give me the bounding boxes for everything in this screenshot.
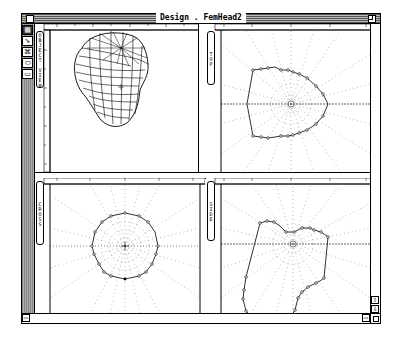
top-section-canvas (206, 24, 371, 172)
top-section-label[interactable]: TOP SECTION (207, 31, 215, 85)
wireframe-icon: ▦ (24, 27, 31, 34)
close-box[interactable] (26, 15, 34, 23)
wireframe-tool-button[interactable]: ▦ (22, 25, 33, 35)
top-section-pane[interactable]: TOP SECTION (206, 24, 371, 172)
title-bar[interactable]: Design . FemHead2 (22, 14, 380, 24)
side-section-canvas (206, 178, 371, 314)
side-section-label[interactable]: SIDE SECTION (207, 181, 215, 241)
cross-section-pane[interactable]: CROSS SECTION (35, 178, 205, 314)
arrow-tool-button[interactable]: ➘ (22, 36, 33, 46)
horizontal-scrollbar[interactable]: ⇦ ⇨ (22, 313, 370, 323)
object-view-label[interactable]: OBJECT VIEW (36, 31, 44, 88)
zoom-box[interactable] (368, 15, 376, 23)
left-arrow-icon: ⇦ (23, 314, 28, 321)
point-icon: ⌘ (24, 49, 31, 56)
size-box[interactable] (370, 313, 380, 323)
point-tool-button[interactable]: ⌘ (22, 47, 33, 57)
design-window: Design . FemHead2 ▦ ➘ ⌘ ⬭ ▭ (21, 13, 381, 324)
object-view-divider[interactable] (198, 24, 205, 172)
cross-section-label[interactable]: CROSS SECTION (36, 181, 44, 245)
up-arrow-icon: ⇧ (372, 296, 377, 303)
oval-icon: ⬭ (25, 60, 31, 67)
rect-tool-button[interactable]: ▭ (22, 69, 33, 79)
right-arrow-icon: ⇨ (363, 314, 368, 321)
scroll-right-button[interactable]: ⇨ (362, 314, 370, 322)
scroll-up-button[interactable]: ⇧ (371, 296, 379, 304)
scroll-down-button[interactable]: ⇩ (371, 305, 379, 313)
window-title: Design . FemHead2 (156, 13, 246, 23)
down-arrow-icon: ⇩ (372, 305, 377, 312)
object-view-pane[interactable]: OBJECT VIEW (35, 24, 205, 172)
vertical-scrollbar[interactable]: ⇧ ⇩ (370, 24, 380, 313)
object-view-canvas (35, 24, 205, 172)
side-section-pane[interactable]: SIDE SECTION (206, 178, 371, 314)
rect-icon: ▭ (24, 71, 31, 78)
cross-section-canvas (35, 178, 205, 314)
oval-tool-button[interactable]: ⬭ (22, 58, 33, 68)
scroll-left-button[interactable]: ⇦ (22, 314, 30, 322)
arrow-icon: ➘ (25, 38, 31, 45)
tool-palette: ▦ ➘ ⌘ ⬭ ▭ (22, 24, 35, 313)
